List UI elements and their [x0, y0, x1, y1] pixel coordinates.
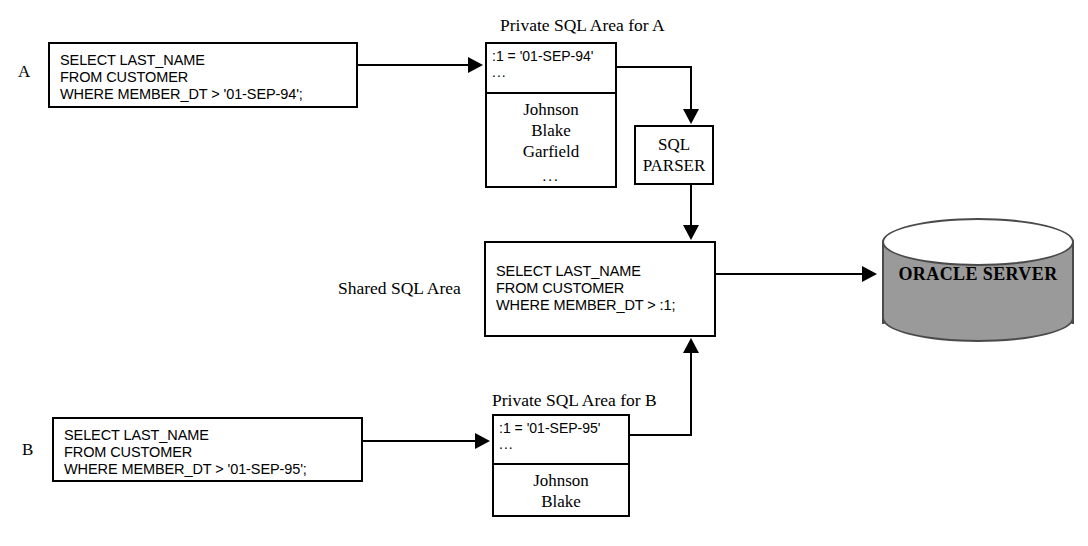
- session-b-label: B: [22, 440, 33, 460]
- private-area-a-bind-section: :1 = '01-SEP-94' ...: [487, 44, 615, 94]
- oracle-server-cylinder-top: [882, 218, 1074, 266]
- shared-statement-line3: WHERE MEMBER_DT > :1;: [496, 297, 714, 314]
- session-b-statement-line2: FROM CUSTOMER: [64, 444, 361, 461]
- arrow-parser-to-shared-head: [683, 225, 699, 240]
- connector-private-b-to-shared-horizontal: [630, 434, 692, 436]
- session-a-statement-line3: WHERE MEMBER_DT > '01-SEP-94';: [60, 86, 356, 103]
- private-area-b-bind-value: :1 = '01-SEP-95': [499, 420, 628, 437]
- private-area-b-row-0: Johnson: [494, 470, 628, 491]
- connector-private-a-to-parser-vertical: [690, 66, 692, 111]
- private-sql-area-a-box: :1 = '01-SEP-94' ... Johnson Blake Garfi…: [485, 42, 617, 188]
- private-area-b-row-1: Blake: [494, 491, 628, 512]
- private-area-a-row-0: Johnson: [487, 99, 615, 120]
- private-area-a-row-2: Garfield: [487, 141, 615, 162]
- arrow-a-to-private-a-head: [468, 57, 483, 73]
- shared-statement-line2: FROM CUSTOMER: [496, 280, 714, 297]
- session-b-statement-box: SELECT LAST_NAME FROM CUSTOMER WHERE MEM…: [52, 417, 363, 482]
- private-area-a-row-1: Blake: [487, 120, 615, 141]
- session-a-statement-box: SELECT LAST_NAME FROM CUSTOMER WHERE MEM…: [48, 42, 358, 108]
- private-area-a-caption: Private SQL Area for A: [500, 15, 665, 35]
- session-b-statement-line3: WHERE MEMBER_DT > '01-SEP-95';: [64, 461, 361, 478]
- arrow-private-a-to-parser-head: [683, 109, 699, 124]
- session-a-statement-line1: SELECT LAST_NAME: [60, 52, 356, 69]
- connector-private-b-to-shared-vertical: [690, 352, 692, 436]
- private-area-a-row-3: ...: [487, 166, 615, 187]
- sql-parser-box: SQL PARSER: [634, 125, 714, 185]
- private-area-b-caption: Private SQL Area for B: [492, 390, 657, 410]
- arrow-shared-to-server-head: [862, 266, 877, 282]
- session-a-statement-line2: FROM CUSTOMER: [60, 69, 356, 86]
- connector-parser-to-shared-vertical: [690, 185, 692, 227]
- shared-sql-area-box: SELECT LAST_NAME FROM CUSTOMER WHERE MEM…: [484, 241, 716, 337]
- connector-private-a-to-parser-horizontal: [617, 66, 692, 68]
- private-area-a-bind-value: :1 = '01-SEP-94': [492, 48, 615, 65]
- private-area-b-bind-more: ...: [499, 437, 628, 451]
- oracle-server-cylinder: ORACLE SERVER: [882, 218, 1074, 346]
- oracle-server-label: ORACLE SERVER: [882, 264, 1074, 285]
- session-a-label: A: [18, 62, 30, 82]
- private-area-b-bind-section: :1 = '01-SEP-95' ...: [494, 416, 628, 465]
- connector-shared-to-server-line: [716, 273, 864, 275]
- sql-parser-line2: PARSER: [643, 155, 706, 176]
- connector-b-to-private-b-line: [363, 440, 477, 442]
- shared-sql-area-caption: Shared SQL Area: [338, 278, 461, 298]
- connector-a-to-private-a-line: [358, 64, 470, 66]
- private-area-b-result-rows: Johnson Blake: [494, 465, 628, 515]
- arrow-b-to-private-b-head: [475, 433, 490, 449]
- session-b-statement-line1: SELECT LAST_NAME: [64, 427, 361, 444]
- private-sql-area-b-box: :1 = '01-SEP-95' ... Johnson Blake: [492, 414, 630, 517]
- sql-parser-line1: SQL: [658, 134, 690, 155]
- diagram-canvas: A SELECT LAST_NAME FROM CUSTOMER WHERE M…: [0, 0, 1088, 546]
- shared-statement-line1: SELECT LAST_NAME: [496, 263, 714, 280]
- private-area-a-result-rows: Johnson Blake Garfield ...: [487, 94, 615, 186]
- arrow-private-b-to-shared-head: [683, 338, 699, 353]
- private-area-a-bind-more: ...: [492, 65, 615, 79]
